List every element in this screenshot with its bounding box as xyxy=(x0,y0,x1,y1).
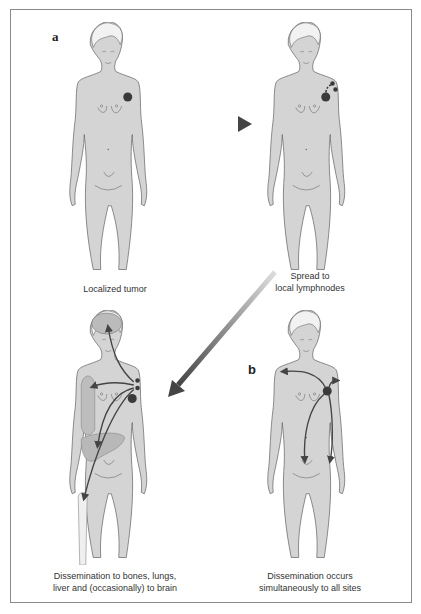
progression-arrows xyxy=(0,0,421,614)
caption-organs: Dissemination to bones, lungs,liver and … xyxy=(20,570,210,594)
caption-simultaneous: Dissemination occurssimultaneously to al… xyxy=(215,570,405,594)
caption-localized: Localized tumor xyxy=(20,283,210,295)
caption-lymph: Spread tolocal lymphnodes xyxy=(215,270,405,294)
